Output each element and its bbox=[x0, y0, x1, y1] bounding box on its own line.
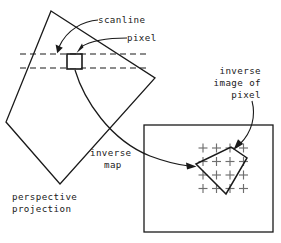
label-perspective-line2: projection bbox=[12, 203, 71, 214]
label-scanline: scanline bbox=[98, 14, 145, 25]
pixel-arrowhead bbox=[77, 43, 84, 53]
scanline-leader-arrow bbox=[59, 20, 98, 47]
inverse-image-quad bbox=[196, 147, 247, 194]
inverse-image-leader-arrow bbox=[240, 101, 254, 144]
label-inverse-map-line2: map bbox=[104, 159, 122, 170]
label-inverse-image-line3: pixel bbox=[231, 89, 261, 100]
diagram-svg: scanline pixel inverse image of pixel in… bbox=[0, 0, 281, 243]
label-perspective-line1: perspective bbox=[12, 191, 77, 202]
label-inverse-map-line1: inverse bbox=[90, 147, 132, 158]
diagram-canvas: scanline pixel inverse image of pixel in… bbox=[0, 0, 281, 243]
label-pixel: pixel bbox=[127, 32, 157, 43]
inverse-map-arrowhead bbox=[186, 163, 197, 170]
label-inverse-image-line1: inverse bbox=[219, 65, 261, 76]
pixel-square-fill bbox=[68, 55, 81, 68]
label-inverse-image-line2: image of bbox=[214, 77, 261, 88]
inverse-image-box bbox=[144, 125, 273, 232]
